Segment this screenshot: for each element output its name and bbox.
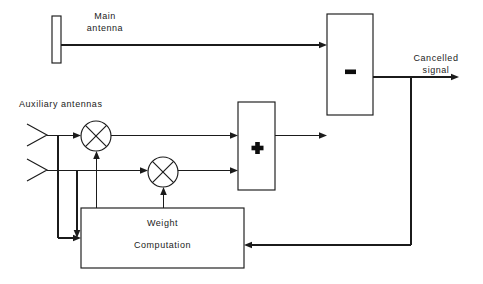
cancelled-signal-label-line1: Cancelled bbox=[414, 53, 459, 63]
cancelled-signal-label-line2: signal bbox=[423, 65, 450, 75]
main-antenna-label-line2: antenna bbox=[87, 23, 123, 33]
weight-1-control-path bbox=[93, 151, 100, 208]
sidelobe-canceller-diagram: Mainantenna Auxiliary antennas Cancelled… bbox=[0, 0, 483, 284]
auxiliary-antennas-label: Auxiliary antennas bbox=[19, 99, 159, 111]
main-antenna-element bbox=[52, 16, 61, 63]
weight-computation-label-line1: Weight bbox=[112, 218, 213, 230]
summer-output-path bbox=[275, 132, 327, 139]
auxiliary-2-signal-path bbox=[47, 167, 148, 174]
weight-computation-block bbox=[81, 208, 244, 268]
subtractor-block bbox=[327, 14, 373, 115]
minus-symbol-icon bbox=[345, 70, 356, 75]
mixer-1-output-path bbox=[111, 132, 238, 139]
weight-2-control-path bbox=[160, 187, 167, 208]
mixer-2-output-path bbox=[178, 167, 238, 174]
auxiliary-antenna-upper bbox=[27, 124, 47, 146]
main-antenna-label: Mainantenna bbox=[70, 11, 140, 34]
weight-computation-label-line2: Computation bbox=[112, 240, 213, 252]
auxiliary-2-tap-to-weight-path bbox=[74, 171, 81, 239]
cancelled-signal-label: Cancelledsignal bbox=[396, 53, 476, 76]
auxiliary-antenna-lower bbox=[27, 159, 47, 181]
auxiliary-1-signal-path bbox=[47, 132, 81, 139]
mixer-lower bbox=[148, 157, 178, 187]
diagram-canvas bbox=[0, 0, 483, 284]
main-antenna-label-line1: Main bbox=[94, 11, 116, 21]
mixer-upper bbox=[81, 121, 111, 151]
main-antenna-signal-path bbox=[61, 42, 327, 49]
